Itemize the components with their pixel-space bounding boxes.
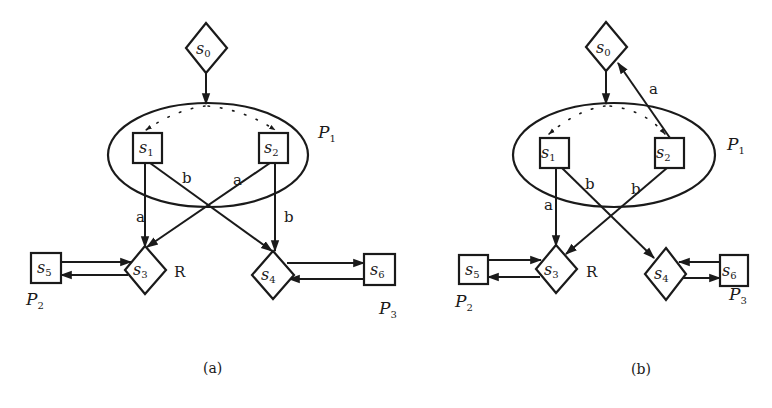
node-s5: s5 — [459, 255, 488, 284]
partition-label-p2: P2 — [25, 289, 44, 311]
node-s2: s2 — [655, 138, 684, 168]
node-s0: s0 — [186, 23, 227, 73]
node-s3: s3 — [536, 245, 577, 293]
edge-label-s2-s3: b — [631, 180, 641, 198]
panel-b: a b b a s0 s1 s2 s3 s4 s5 — [454, 22, 748, 377]
node-s3: s3 — [125, 246, 166, 294]
partition-label-p3: P3 — [378, 298, 397, 320]
partition-label-p2: P2 — [454, 291, 473, 313]
edge-label-s1-s3: a — [136, 208, 145, 226]
edge-label-s2-s3: a — [233, 171, 242, 189]
node-s6: s6 — [720, 255, 748, 286]
edge-label-s2-s4: b — [284, 208, 294, 226]
node-s0: s0 — [586, 22, 627, 71]
edge-s2-to-s3 — [566, 168, 667, 254]
diagram-canvas: b a a b s0 s1 s2 s3 s4 s5 — [0, 0, 772, 408]
node-s5: s5 — [31, 253, 61, 283]
region-label-r: R — [174, 263, 186, 281]
caption-b: (b) — [631, 361, 651, 377]
dotted-arrow-to-s1 — [549, 106, 605, 134]
node-s1: s1 — [540, 138, 569, 168]
edge-label-s1-s4: b — [585, 175, 595, 193]
edge-s2-to-s0 — [618, 63, 670, 138]
partition-label-p3: P3 — [728, 284, 747, 306]
partition-label-p1: P1 — [726, 134, 745, 156]
node-s2: s2 — [259, 133, 288, 163]
node-s4: s4 — [252, 251, 294, 299]
edge-label-s2-s0: a — [649, 80, 658, 98]
panel-a: b a a b s0 s1 s2 s3 s4 s5 — [25, 23, 397, 376]
edge-label-s1-s3: a — [544, 196, 553, 214]
partition-label-p1: P1 — [317, 122, 336, 144]
caption-a: (a) — [203, 360, 222, 376]
edge-s1-to-s4 — [150, 163, 272, 251]
node-s1: s1 — [133, 133, 162, 163]
dotted-arrow-to-s1 — [146, 106, 205, 130]
edge-label-s1-s4: b — [182, 169, 192, 187]
region-label-r: R — [586, 263, 598, 281]
dotted-arrow-to-s2 — [208, 106, 275, 130]
node-s6: s6 — [364, 254, 395, 285]
edge-s2-to-s3 — [147, 163, 270, 247]
